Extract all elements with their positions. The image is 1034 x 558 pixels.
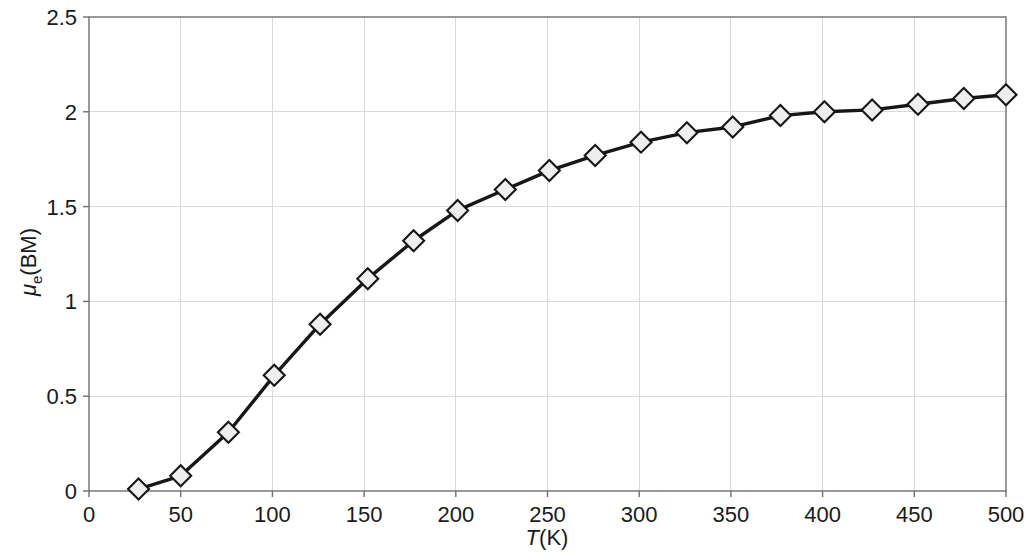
- x-tick-label-7: 350: [713, 502, 750, 527]
- y-tick-label-5: 2.5: [46, 5, 77, 30]
- y-axis-title: μe(BM): [16, 228, 45, 297]
- chart-figure: 050100150200250300350400450500 00.511.52…: [0, 0, 1034, 558]
- x-tick-label-6: 300: [621, 502, 658, 527]
- y-axis-title-subscript: e: [28, 276, 45, 284]
- y-axis-title-symbol: μ: [16, 284, 41, 297]
- x-tick-label-9: 450: [896, 502, 933, 527]
- y-tick-label-0: 0: [65, 479, 77, 504]
- y-axis-title-unit: (BM): [16, 228, 41, 276]
- x-tick-label-2: 100: [254, 502, 291, 527]
- y-tick-label-1: 0.5: [46, 384, 77, 409]
- x-tick-label-10: 500: [988, 502, 1025, 527]
- line-chart-plot: 050100150200250300350400450500 00.511.52…: [0, 0, 1034, 558]
- x-tick-label-5: 250: [529, 502, 566, 527]
- x-tick-label-0: 0: [83, 502, 95, 527]
- figure-background: [0, 0, 1034, 558]
- x-axis-title: T(K): [526, 525, 569, 550]
- x-tick-label-1: 50: [168, 502, 192, 527]
- x-axis-title-unit: (K): [539, 525, 568, 550]
- y-tick-label-2: 1: [65, 289, 77, 314]
- y-tick-label-4: 2: [65, 100, 77, 125]
- x-tick-label-3: 150: [346, 502, 383, 527]
- x-tick-label-8: 400: [804, 502, 841, 527]
- y-tick-label-3: 1.5: [46, 195, 77, 220]
- x-tick-label-4: 200: [437, 502, 474, 527]
